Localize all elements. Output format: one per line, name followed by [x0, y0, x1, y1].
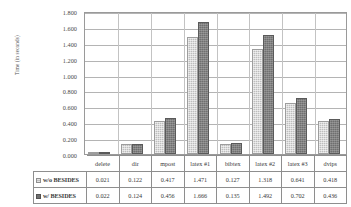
- y-tick-label: 0.800: [63, 88, 77, 95]
- legend-label: w/o BESIDES: [43, 176, 79, 183]
- y-tick-label: 1.000: [63, 72, 77, 79]
- legend-cell: w/o BESIDES: [34, 172, 87, 188]
- bar-group: [151, 13, 184, 154]
- value-cell: 0.456: [152, 188, 185, 204]
- bar: [329, 119, 340, 154]
- bar: [318, 121, 329, 154]
- bar: [187, 37, 198, 154]
- value-cell: 1.471: [184, 172, 217, 188]
- bar: [198, 22, 209, 154]
- category-label-cell: latex #1: [184, 156, 217, 172]
- y-axis-label: Time (in seconds): [14, 10, 20, 100]
- table-row: w/ BESIDES0.0220.1240.4561.6660.1351.492…: [34, 188, 347, 204]
- category-label-cell: dir: [119, 156, 152, 172]
- bar: [220, 144, 231, 154]
- bar-group: [118, 13, 151, 154]
- value-cell: 0.122: [119, 172, 152, 188]
- value-cell: 0.127: [217, 172, 250, 188]
- legend-label: w/ BESIDES: [43, 192, 76, 199]
- legend-swatch-icon: [36, 178, 41, 183]
- value-cell: 0.418: [314, 172, 347, 188]
- bar-series-container: [85, 13, 346, 154]
- data-table: deletedirmpostlatex #1bibtexlatex #2late…: [33, 155, 347, 204]
- bar-group: [184, 13, 217, 154]
- bar-group: [217, 13, 250, 154]
- bar-group: [282, 13, 315, 154]
- bar: [99, 152, 110, 154]
- category-label-cell: latex #3: [282, 156, 315, 172]
- y-tick-label: 1.400: [63, 40, 77, 47]
- category-label-cell: latex #2: [249, 156, 282, 172]
- value-cell: 0.022: [87, 188, 120, 204]
- legend-swatch-icon: [36, 194, 41, 199]
- bar: [252, 49, 263, 154]
- bar: [231, 143, 242, 154]
- value-cell: 0.702: [282, 188, 315, 204]
- value-cell: 0.417: [152, 172, 185, 188]
- value-cell: 0.436: [314, 188, 347, 204]
- bar: [263, 35, 274, 154]
- bar: [296, 98, 307, 154]
- category-label-cell: delete: [87, 156, 120, 172]
- y-tick-label: 1.800: [63, 9, 77, 16]
- value-cell: 1.318: [249, 172, 282, 188]
- value-cell: 1.666: [184, 188, 217, 204]
- bar-group: [85, 13, 118, 154]
- bar: [165, 118, 176, 154]
- bar-chart-figure: Time (in seconds) 0.0000.2000.4000.6000.…: [0, 0, 351, 207]
- category-label-cell: dvips: [314, 156, 347, 172]
- y-tick-label: 0.200: [63, 136, 77, 143]
- value-cell: 0.021: [87, 172, 120, 188]
- bar: [285, 103, 296, 154]
- bar: [154, 121, 165, 154]
- category-label-cell: mpost: [152, 156, 185, 172]
- table-corner-cell: [34, 156, 87, 172]
- bar: [88, 152, 99, 154]
- bar: [121, 144, 132, 154]
- legend-cell: w/ BESIDES: [34, 188, 87, 204]
- y-tick-label: 1.600: [63, 24, 77, 31]
- bar-group: [249, 13, 282, 154]
- table-category-row: deletedirmpostlatex #1bibtexlatex #2late…: [34, 156, 347, 172]
- y-axis-tick-labels: 0.0000.2000.4000.6000.8001.0001.2001.400…: [36, 9, 80, 155]
- value-cell: 1.492: [249, 188, 282, 204]
- bar-group: [315, 13, 348, 154]
- plot-area: [84, 12, 347, 155]
- bar: [132, 144, 143, 154]
- value-cell: 0.124: [119, 188, 152, 204]
- y-tick-label: 0.600: [63, 104, 77, 111]
- category-label-cell: bibtex: [217, 156, 250, 172]
- value-cell: 0.641: [282, 172, 315, 188]
- y-tick-label: 0.400: [63, 120, 77, 127]
- table-row: w/o BESIDES0.0210.1220.4171.4710.1271.31…: [34, 172, 347, 188]
- y-tick-label: 1.200: [63, 56, 77, 63]
- value-cell: 0.135: [217, 188, 250, 204]
